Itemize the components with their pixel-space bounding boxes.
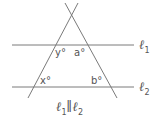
parallel-caption: ℓ1∥ℓ2	[56, 102, 83, 118]
line-l1-label: ℓ1	[139, 40, 150, 56]
angle-a-label: a°	[74, 48, 85, 58]
angle-b-label: b°	[91, 76, 102, 86]
angle-y-label: y°	[55, 48, 66, 58]
transversal-left	[28, 3, 78, 98]
angle-x-label: x°	[40, 76, 51, 86]
line-l2-label: ℓ2	[139, 82, 150, 98]
